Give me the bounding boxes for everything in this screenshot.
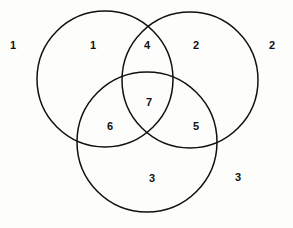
region-label-left-bottom: 6 (107, 121, 113, 132)
venn-circles-svg (0, 0, 293, 228)
region-label-outside-bottom-right: 3 (235, 172, 241, 183)
region-label-right-bottom: 5 (193, 121, 199, 132)
region-label-outside: 1 (10, 40, 16, 51)
region-label-left-right: 4 (144, 40, 150, 51)
left-circle (37, 11, 173, 147)
region-label-left-only: 1 (90, 40, 96, 51)
venn-diagram: 1 1 4 2 2 7 6 5 3 3 (0, 0, 293, 228)
region-label-outside-right: 2 (269, 40, 275, 51)
region-label-right-only: 2 (193, 40, 199, 51)
region-label-all-three: 7 (146, 97, 152, 108)
bottom-circle (77, 72, 217, 212)
right-circle (122, 12, 258, 148)
region-label-bottom-only: 3 (149, 173, 155, 184)
